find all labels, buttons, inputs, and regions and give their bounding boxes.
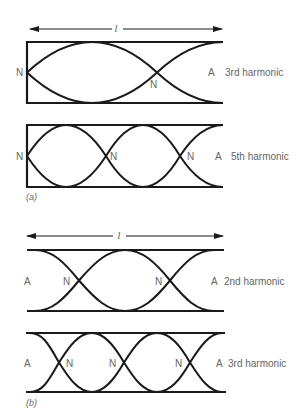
- node-label: N: [187, 151, 194, 162]
- node-label: N: [63, 276, 70, 287]
- standing-waves-figure: l N N A 3rd harmonic N N N A 5th harmoni…: [0, 0, 299, 414]
- antinode-label: A: [24, 358, 31, 369]
- wave-curve-lower: [35, 250, 214, 311]
- length-arrow-b: l: [27, 230, 223, 241]
- node-label: N: [66, 358, 73, 369]
- panel-b: l A N N A 2nd harmonic A N N N A: [24, 230, 286, 408]
- diagram-closed-3rd: N N A 3rd harmonic: [16, 42, 283, 103]
- node-label: N: [109, 358, 116, 369]
- node-label: N: [150, 79, 157, 90]
- node-label: N: [110, 151, 117, 162]
- antinode-label: A: [215, 151, 222, 162]
- harmonic-label: 3rd harmonic: [228, 358, 286, 369]
- harmonic-label: 3rd harmonic: [225, 67, 283, 78]
- node-label: N: [16, 67, 23, 78]
- wave-curve-upper: [35, 250, 214, 311]
- panel-caption-a: (a): [26, 192, 37, 202]
- harmonic-label: 2nd harmonic: [224, 276, 285, 287]
- panel-caption-b: (b): [26, 398, 37, 408]
- diagram-open-2nd: A N N A 2nd harmonic: [24, 250, 285, 311]
- antinode-label: A: [216, 358, 223, 369]
- node-label: N: [155, 276, 162, 287]
- node-label: N: [16, 151, 23, 162]
- diagram-closed-5th: N N N A 5th harmonic: [16, 125, 289, 187]
- antinode-label: A: [24, 276, 31, 287]
- harmonic-label: 5th harmonic: [231, 151, 289, 162]
- wave-curve-lower: [30, 333, 222, 392]
- antinode-label: A: [211, 276, 218, 287]
- antinode-label: A: [208, 67, 215, 78]
- length-label: l: [118, 230, 121, 241]
- length-arrow-a: l: [30, 23, 222, 34]
- diagram-open-3rd: A N N N A 3rd harmonic: [24, 333, 286, 392]
- node-label: N: [175, 358, 182, 369]
- length-label: l: [115, 23, 118, 34]
- panel-a: l N N A 3rd harmonic N N N A 5th harmoni…: [16, 23, 289, 202]
